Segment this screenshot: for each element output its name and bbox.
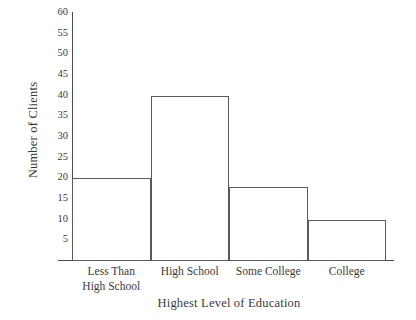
- category-label: Less Than High School: [72, 264, 151, 293]
- x-axis-category-labels: Less Than High SchoolHigh SchoolSome Col…: [72, 264, 386, 298]
- y-tick-label: 10: [46, 213, 68, 225]
- category-label: Some College: [229, 264, 308, 279]
- y-tick-label: 55: [46, 27, 68, 39]
- bar: [229, 187, 308, 261]
- y-tick-label: 15: [46, 192, 68, 204]
- bars-layer: [72, 12, 386, 261]
- bar-chart: Number of Clients 5101520253035404550556…: [0, 0, 416, 320]
- y-tick-label: 25: [46, 151, 68, 163]
- y-axis-tick-labels: 51015202530354045505560: [42, 0, 68, 320]
- bar: [72, 178, 151, 261]
- y-tick-label: 20: [46, 171, 68, 183]
- category-label: College: [308, 264, 387, 279]
- y-axis-title: Number of Clients: [22, 0, 44, 260]
- category-label: High School: [151, 264, 230, 279]
- y-tick-label: 50: [46, 47, 68, 59]
- y-tick-label: 35: [46, 109, 68, 121]
- y-tick-label: 45: [46, 68, 68, 80]
- y-tick-label: 40: [46, 89, 68, 101]
- x-axis-title: Highest Level of Education: [72, 296, 386, 311]
- bar: [308, 220, 387, 261]
- y-tick-label: 30: [46, 130, 68, 142]
- y-tick-label: 60: [46, 6, 68, 18]
- bar: [151, 96, 230, 261]
- y-tick-label: 5: [46, 233, 68, 245]
